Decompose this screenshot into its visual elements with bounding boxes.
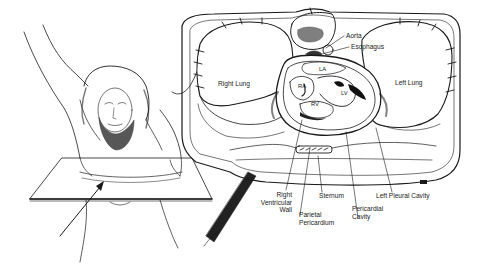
label-pericardial-cavity: Pericardial Cavity bbox=[352, 205, 383, 220]
anatomy-figure: Aorta Esophagus Right Lung Left Lung LA … bbox=[0, 0, 477, 267]
torso-figure bbox=[24, 25, 204, 176]
thorax-cross-section bbox=[182, 8, 460, 185]
label-left-ventricle: LV bbox=[341, 90, 348, 98]
label-right-lung: Right Lung bbox=[218, 80, 250, 88]
label-left-pleural-cavity: Left Pleural Cavity bbox=[376, 192, 430, 200]
illustration-canvas bbox=[0, 0, 477, 267]
label-right-atrium: RA bbox=[298, 83, 306, 91]
label-right-ventricular-wall: Right Ventricular Wall bbox=[254, 191, 292, 214]
label-right-ventricle: RV bbox=[311, 101, 319, 109]
label-left-atrium: LA bbox=[319, 66, 326, 74]
label-esophagus: Esophagus bbox=[351, 43, 384, 51]
vertebra bbox=[291, 8, 336, 49]
label-sternum: Sternum bbox=[319, 192, 344, 200]
sternum-bone bbox=[296, 146, 332, 153]
label-aorta: Aorta bbox=[346, 32, 362, 40]
connector-band bbox=[206, 172, 256, 242]
scale-mark bbox=[420, 180, 427, 184]
cutting-plane bbox=[30, 158, 212, 201]
label-parietal-pericardium: Parietal Pericardium bbox=[299, 211, 334, 226]
label-left-lung: Left Lung bbox=[395, 79, 423, 87]
